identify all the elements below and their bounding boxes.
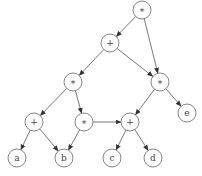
node-n6: * [75,113,93,131]
edge-n1-n2 [117,16,136,36]
node-n7: + [121,113,139,131]
node-n4: * [151,73,169,91]
node-label: b [61,153,67,163]
node-label: * [158,79,163,89]
node-n8: e [178,104,196,122]
node-label: e [184,108,189,118]
node-n5: + [25,113,43,131]
node-label: * [140,7,145,17]
node-label: + [30,117,38,127]
edge-n5-n9 [21,130,30,149]
edge-n4-n8 [166,89,181,106]
nodes: *+**+*+eabcd [8,1,196,167]
node-n3: * [64,73,82,91]
edge-n7-n11 [116,130,126,149]
node-n9: a [8,149,26,167]
edge-n6-n10 [69,130,80,150]
node-label: + [126,117,134,127]
node-label: d [150,153,156,163]
edge-n2-n3 [80,50,104,76]
node-label: c [109,153,114,163]
node-n11: c [103,149,121,167]
edge-n1-n4 [144,19,158,73]
edge-n2-n4 [117,49,152,77]
node-n10: b [55,149,73,167]
edge-n3-n6 [75,91,81,113]
node-n12: d [144,149,162,167]
expression-dag-diagram: *+**+*+eabcd [0,0,202,176]
edge-n5-n10 [40,129,58,151]
edge-n4-n7 [136,89,155,114]
edge-n7-n12 [135,130,148,150]
node-label: a [14,153,20,163]
node-label: * [82,119,87,129]
node-label: + [106,38,114,48]
edge-n3-n5 [41,88,67,115]
node-n1: * [133,1,151,19]
node-n2: + [101,34,119,52]
node-label: * [71,79,76,89]
